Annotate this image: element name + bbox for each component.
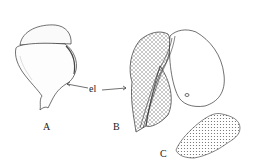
label-b: B	[113, 122, 120, 132]
label-c: C	[160, 149, 167, 159]
specimen-c-drawing	[176, 113, 240, 158]
label-el: el	[89, 84, 96, 94]
illustration-figure: el A B C	[0, 0, 256, 163]
el-arrows	[67, 82, 126, 90]
specimen-a-drawing	[15, 25, 76, 110]
drawing-canvas	[0, 0, 256, 163]
label-a: A	[43, 122, 50, 132]
